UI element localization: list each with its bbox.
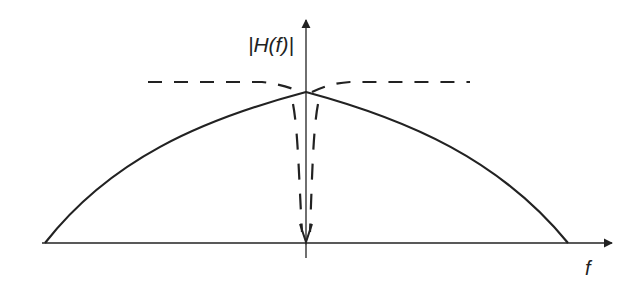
dashed-response-right	[312, 82, 470, 92]
x-axis-label: f	[585, 257, 593, 279]
dashed-notch-right	[310, 104, 318, 232]
frequency-response-diagram: |H(f)| f	[0, 0, 640, 287]
y-axis-label: |H(f)|	[248, 33, 294, 56]
dashed-notch-left	[293, 104, 302, 232]
dashed-response-left	[148, 82, 300, 92]
